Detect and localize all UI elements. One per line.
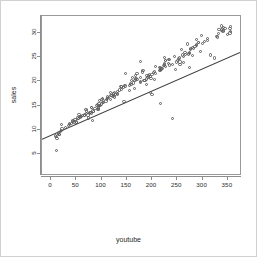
x-axis-title: youtube bbox=[1, 236, 256, 243]
data-point bbox=[171, 117, 174, 120]
data-point bbox=[154, 72, 157, 75]
data-point bbox=[188, 51, 191, 54]
data-point bbox=[188, 66, 191, 69]
data-point bbox=[171, 63, 174, 66]
data-point bbox=[191, 54, 194, 57]
data-point bbox=[226, 33, 229, 36]
data-point bbox=[98, 104, 101, 107]
data-point bbox=[142, 79, 145, 82]
plot-area bbox=[41, 15, 241, 175]
y-tick-label: 20 bbox=[30, 73, 37, 87]
y-tick-label: 10 bbox=[30, 122, 37, 136]
data-point bbox=[153, 78, 156, 81]
data-point bbox=[104, 99, 107, 102]
data-point bbox=[92, 110, 95, 113]
y-tick-mark bbox=[37, 32, 40, 33]
x-tick-mark bbox=[151, 177, 152, 180]
data-point bbox=[223, 27, 226, 30]
data-point bbox=[192, 47, 195, 50]
y-tick-mark bbox=[37, 80, 40, 81]
data-point bbox=[139, 76, 142, 79]
x-tick-label: 350 bbox=[222, 181, 233, 188]
y-tick-mark bbox=[37, 153, 40, 154]
y-tick-mark bbox=[37, 105, 40, 106]
x-tick-mark bbox=[75, 177, 76, 180]
y-tick-label: 25 bbox=[30, 49, 37, 63]
data-point bbox=[145, 83, 148, 86]
x-tick-mark bbox=[101, 177, 102, 180]
data-point bbox=[96, 108, 99, 111]
data-point bbox=[54, 134, 57, 137]
chart-figure: 050100150200250300350 51015202530 youtub… bbox=[0, 0, 257, 257]
data-point bbox=[201, 42, 204, 45]
x-tick-label: 200 bbox=[146, 181, 157, 188]
data-point bbox=[186, 42, 189, 45]
data-point bbox=[154, 65, 157, 68]
data-point bbox=[199, 50, 202, 53]
data-point bbox=[128, 89, 131, 92]
y-tick-mark bbox=[37, 129, 40, 130]
y-axis-line bbox=[40, 15, 41, 175]
data-point bbox=[206, 39, 209, 42]
y-tick-mark bbox=[37, 56, 40, 57]
y-tick-label: 15 bbox=[30, 98, 37, 112]
data-point bbox=[139, 60, 142, 63]
data-point bbox=[167, 58, 170, 61]
y-tick-label: 5 bbox=[30, 146, 37, 160]
data-points bbox=[42, 16, 240, 174]
data-point bbox=[141, 70, 144, 73]
x-tick-label: 250 bbox=[171, 181, 182, 188]
data-point bbox=[180, 48, 183, 51]
data-point bbox=[60, 123, 63, 126]
data-point bbox=[91, 119, 94, 122]
data-point bbox=[182, 61, 185, 64]
data-point bbox=[133, 87, 136, 90]
x-tick-mark bbox=[176, 177, 177, 180]
x-tick-label: 100 bbox=[95, 181, 106, 188]
x-tick-label: 300 bbox=[196, 181, 207, 188]
x-tick-label: 50 bbox=[72, 181, 79, 188]
data-point bbox=[120, 88, 123, 91]
x-tick-mark bbox=[227, 177, 228, 180]
data-point bbox=[79, 115, 82, 118]
data-point bbox=[109, 98, 112, 101]
x-tick-label: 0 bbox=[48, 181, 52, 188]
x-tick-mark bbox=[202, 177, 203, 180]
data-point bbox=[124, 72, 127, 75]
data-point bbox=[93, 107, 96, 110]
data-point bbox=[122, 100, 125, 103]
data-point bbox=[134, 77, 137, 80]
data-point bbox=[73, 118, 76, 121]
data-point bbox=[149, 77, 152, 80]
data-point bbox=[128, 84, 131, 87]
x-tick-mark bbox=[126, 177, 127, 180]
data-point bbox=[195, 43, 198, 46]
data-point bbox=[181, 53, 184, 56]
data-point bbox=[209, 53, 212, 56]
data-point bbox=[87, 116, 90, 119]
data-point bbox=[132, 81, 135, 84]
data-point bbox=[213, 56, 216, 59]
data-point bbox=[83, 114, 86, 117]
x-tick-mark bbox=[50, 177, 51, 180]
x-axis-line bbox=[41, 176, 241, 177]
data-point bbox=[200, 34, 203, 37]
data-point bbox=[174, 68, 177, 71]
data-point bbox=[173, 55, 176, 58]
data-point bbox=[113, 95, 116, 98]
data-point bbox=[228, 27, 231, 30]
x-tick-label: 150 bbox=[121, 181, 132, 188]
data-point bbox=[90, 106, 93, 109]
y-tick-label: 30 bbox=[30, 25, 37, 39]
y-axis-title: sales bbox=[10, 87, 17, 103]
data-point bbox=[159, 102, 162, 105]
data-point bbox=[55, 149, 58, 152]
